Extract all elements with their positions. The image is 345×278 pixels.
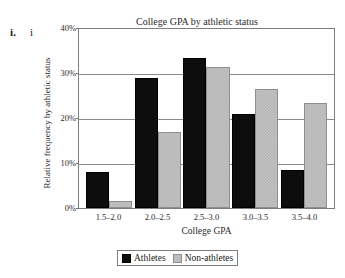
bar-group [135,29,181,208]
x-axis-ticks: 1.5–2.0 2.0–2.5 2.5–3.0 3.0–3.5 3.5–4.0 [78,212,335,226]
chart-title: College GPA by athletic status [62,16,332,28]
x-tick-label: 3.0–3.5 [232,212,279,226]
y-axis-ticks: 40% 30% 20% 10% 0% [42,28,76,209]
bar-non-athletes [304,103,327,208]
bar-athletes [183,58,206,208]
x-tick-label: 2.5–3.0 [183,212,230,226]
y-tick-label-10: 10% [46,159,76,168]
legend-label-athletes: Athletes [134,252,166,264]
y-tick-label-40: 40% [46,24,76,33]
x-axis-label: College GPA [78,226,335,236]
bar-non-athletes [255,89,278,208]
bar-non-athletes [109,201,132,208]
bar-non-athletes [206,67,229,208]
bar-groups [79,29,334,208]
x-tick-label: 1.5–2.0 [85,212,132,226]
bar-athletes [135,78,158,208]
bar-athletes [86,172,109,208]
legend-label-non-athletes: Non-athletes [185,252,234,264]
y-tick-label-0: 0% [46,204,76,213]
outline-marker-b: i [30,26,33,38]
legend-entry-non-athletes: Non-athletes [173,252,234,264]
bar-group [281,29,327,208]
legend-swatch-athletes [122,254,131,263]
legend-swatch-non-athletes [173,254,182,263]
bar-non-athletes [158,132,181,208]
x-tick-label: 3.5–4.0 [281,212,328,226]
bar-group [86,29,132,208]
x-tick-label: 2.0–2.5 [134,212,181,226]
bar-group [183,29,229,208]
y-tick-label-20: 20% [46,114,76,123]
bar-group [232,29,278,208]
outline-marker-a: i. [10,26,16,38]
y-tick-label-30: 30% [46,69,76,78]
plot-area [78,28,335,209]
chart-figure: i. i College GPA by athletic status Rela… [0,0,345,278]
legend-entry-athletes: Athletes [122,252,166,264]
bar-athletes [281,170,304,208]
chart-legend: Athletes Non-athletes [117,250,238,266]
bar-athletes [232,114,255,208]
